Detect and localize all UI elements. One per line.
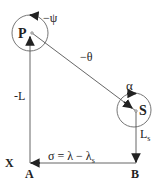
label-sigma: σ = λ − λs: [48, 149, 95, 165]
label-x: X: [5, 156, 14, 170]
label-p: P: [18, 26, 27, 41]
label-l: -L: [14, 89, 25, 103]
label-alpha: α: [126, 78, 133, 93]
label-ls: Ls: [140, 127, 150, 143]
psi-rotation-arrow-icon: [30, 15, 38, 16]
point-s: [135, 110, 137, 112]
label-psi: −ψ: [43, 11, 58, 25]
line-p-s: [32, 33, 136, 111]
theta-arrow-icon: [124, 102, 132, 108]
label-b: B: [131, 167, 139, 181]
point-p: [31, 32, 33, 34]
label-a: A: [25, 167, 34, 181]
geometry-diagram: P S A B X −ψ −θ α -L Ls σ = λ − λs: [0, 0, 162, 185]
label-s: S: [139, 103, 147, 118]
label-theta: −θ: [80, 50, 93, 64]
